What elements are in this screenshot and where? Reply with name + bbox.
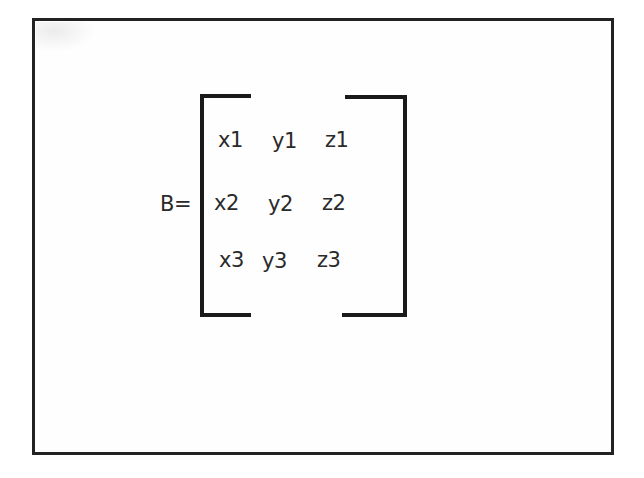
- matrix-cell-z1: z1: [325, 130, 348, 151]
- matrix-name: B=: [160, 194, 191, 215]
- diagram-frame: [32, 18, 614, 455]
- matrix-cell-z3: z3: [317, 250, 340, 271]
- matrix-cell-y2: y2: [268, 194, 293, 215]
- matrix-cell-x2: x2: [214, 193, 239, 214]
- matrix-cell-z2: z2: [322, 193, 345, 214]
- scan-smudge: [36, 22, 96, 52]
- matrix-cell-x1: x1: [218, 130, 243, 151]
- matrix-cell-y1: y1: [272, 131, 297, 152]
- matrix-cell-y3: y3: [262, 251, 287, 272]
- matrix-cell-x3: x3: [219, 250, 244, 271]
